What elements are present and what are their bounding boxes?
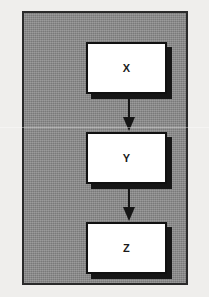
diagram-frame: X Y Z [22, 11, 188, 285]
arrow-down-icon-x-to-y [122, 96, 136, 133]
flowchart-node-z-label: Z [123, 243, 130, 254]
flowchart-node-x[interactable]: X [86, 42, 167, 94]
flowchart-node-x-label: X [123, 63, 131, 74]
arrow-down-icon-y-to-z [122, 186, 136, 223]
arrow-head [123, 117, 135, 131]
flowchart-node-y-label: Y [123, 153, 131, 164]
flowchart-node-y[interactable]: Y [86, 132, 167, 184]
flowchart-node-z[interactable]: Z [86, 222, 167, 274]
arrow-head [123, 207, 135, 221]
screenshot-root: X Y Z [0, 0, 209, 297]
